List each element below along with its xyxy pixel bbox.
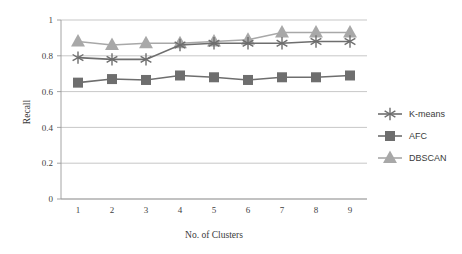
data-point-marker — [209, 72, 219, 82]
y-tick-label: 1 — [49, 15, 54, 25]
y-tick-label: 0.4 — [42, 123, 54, 133]
legend-label: DBSCAN — [409, 153, 447, 163]
recall-line-chart: 00.20.40.60.81 123456789 Recall No. of C… — [0, 0, 462, 254]
x-tick-label: 8 — [314, 205, 319, 215]
y-tick-label: 0 — [49, 194, 54, 204]
data-point-marker — [73, 78, 83, 88]
legend-label: K-means — [409, 109, 446, 119]
x-tick-label: 2 — [110, 205, 115, 215]
x-tick-label: 1 — [76, 205, 81, 215]
legend-label: AFC — [409, 131, 428, 141]
y-tick-label: 0.2 — [42, 158, 53, 168]
y-axis-title: Recall — [22, 100, 32, 125]
x-tick-label: 6 — [246, 205, 251, 215]
chart-figure: 00.20.40.60.81 123456789 Recall No. of C… — [0, 0, 462, 254]
legend-marker-square-icon — [385, 131, 395, 141]
data-point-marker — [243, 75, 253, 85]
x-tick-label: 3 — [144, 205, 149, 215]
x-axis-title: No. of Clusters — [185, 230, 243, 240]
y-tick-label: 0.6 — [42, 87, 54, 97]
x-tick-label: 5 — [212, 205, 217, 215]
data-point-marker — [277, 72, 287, 82]
data-point-marker — [345, 70, 355, 80]
data-point-marker — [107, 74, 117, 84]
data-point-marker — [141, 75, 151, 85]
data-point-marker — [311, 72, 321, 82]
y-tick-label: 0.8 — [42, 51, 54, 61]
x-tick-label: 4 — [178, 205, 183, 215]
x-tick-label: 7 — [280, 205, 285, 215]
data-point-marker — [175, 70, 185, 80]
x-tick-label: 9 — [348, 205, 353, 215]
